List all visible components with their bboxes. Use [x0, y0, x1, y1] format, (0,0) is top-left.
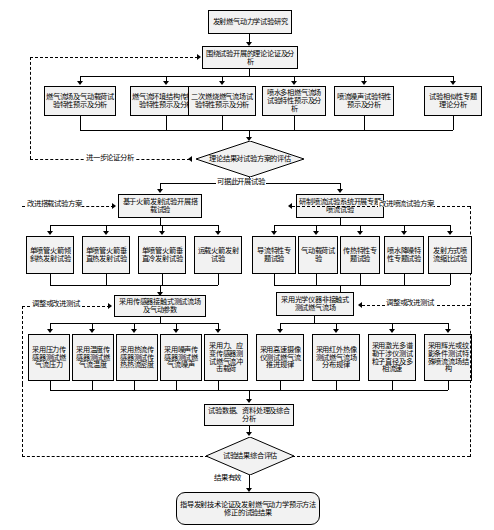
arrow-cm-4 [173, 329, 179, 333]
dash-feedback-left-up [22, 384, 23, 457]
edge-theory-bus [249, 69, 250, 76]
arrow-theory-3 [219, 81, 225, 85]
node-contact-measure-4: 采用噪声传感器测试燃气流噪声 [160, 334, 202, 381]
up-om-3 [392, 381, 393, 390]
up-theory-2 [166, 116, 167, 130]
bus-jet [274, 225, 450, 226]
up-cm-4 [176, 381, 177, 390]
arrow-cm-2 [89, 329, 95, 333]
up-om-2 [336, 381, 337, 390]
node-contact-measure-1: 采用压力传感器测试燃气流压力 [28, 334, 70, 381]
node-left-test-1: 单喷管火箭倾斜热发射试验 [26, 236, 74, 274]
up-om-4 [448, 381, 449, 390]
arrow-analysis-decision2 [246, 432, 252, 436]
up-ltest-1 [50, 274, 51, 285]
arrow-proceed-left [157, 189, 163, 193]
label-can-proceed: 可据此开展试验 [216, 178, 266, 185]
node-optical-measure-3: 采用激光多谱勒干涉仪测试粒子直径及多相流速 [368, 334, 416, 381]
edge-carrier-bus [160, 218, 161, 225]
arrow-measures-to-analysis [246, 399, 252, 403]
up-rtest-5 [450, 274, 451, 285]
node-root: 发射燃气动力学试验研究 [208, 10, 292, 34]
up-cm-2 [92, 381, 93, 390]
arrow-ltest-2 [103, 231, 109, 235]
node-final-outcome: 指导发射技术论证及发射燃气动力学预示方法修正的试验结果 [176, 492, 320, 525]
up-theory-6 [453, 116, 454, 130]
edge-jet-bus [340, 218, 341, 225]
up-ltest-2 [106, 274, 107, 285]
up-cm-1 [50, 381, 51, 390]
arrow-rtest-5 [447, 231, 453, 235]
label-adjust-test-left: 调整或改进测试 [31, 300, 81, 307]
node-theory-child-4: 喷水多相燃气流场试验特性预示及分析 [262, 86, 326, 116]
arrow-rtest-2 [313, 231, 319, 235]
arrow-om-2 [333, 329, 339, 333]
node-branch-carrier-test: 基于火箭发射试验开展搭载试验 [118, 194, 202, 218]
up-rtest-3 [360, 274, 361, 285]
label-further-analysis: 进一步论证分析 [85, 154, 135, 161]
arrow-om-4 [445, 329, 451, 333]
bus-carrier [50, 225, 218, 226]
arrow-theory-6 [450, 81, 456, 85]
node-right-test-3: 传热特性专题试验 [340, 236, 380, 274]
arrow-rtest-1 [271, 231, 277, 235]
decision-theory-eval-label: 理论结果对试验方案的评估 [196, 141, 304, 177]
node-data-analysis: 试验数据、资料处理及综合分析 [204, 404, 294, 426]
up-rtest-1 [274, 274, 275, 285]
edge-optical-bus [314, 316, 315, 323]
arrow-ltest-4 [215, 231, 221, 235]
up-theory-4 [294, 116, 295, 130]
label-improve-jet: 改进喷流试验方案 [378, 200, 434, 207]
node-left-test-4: 运载火箭发射试验 [194, 236, 242, 274]
node-theory: 围绕试验开展的理论论证及分析 [202, 46, 298, 69]
bus-optical [280, 323, 448, 324]
node-contact-measure-3: 采用热流传感器测试传热热流密度 [116, 334, 158, 381]
bus-rtest-collect [274, 285, 450, 286]
node-theory-child-6: 试验相似性专题理论分析 [424, 86, 482, 116]
node-theory-child-3: 二次燃烧燃气流场试验特性预示及分析 [188, 86, 256, 116]
label-result-valid: 结果有效 [213, 474, 242, 481]
up-ltest-4 [218, 274, 219, 285]
node-theory-child-1: 燃气流场及气动载荷试验特性预示及分析 [44, 86, 116, 116]
up-rtest-2 [316, 274, 317, 285]
arrow-theory-1 [77, 81, 83, 85]
up-ltest-3 [162, 274, 163, 285]
bus-theory-row [80, 76, 453, 77]
dash-feedback-left [22, 456, 208, 457]
node-method-optical: 采用光学仪器非接触式测试燃气流场 [276, 292, 354, 316]
node-contact-measure-5: 采用力、应变传感器测试燃气流冲击载荷 [204, 334, 248, 381]
node-right-test-1: 导流特性专题试验 [252, 236, 296, 274]
arrow-cm-5 [215, 329, 221, 333]
node-method-contact: 采用传感器接触式测试流场及气动参数 [114, 295, 206, 317]
node-optical-measure-4: 采用辉光或纹影条件测试特殊喷流流场结构 [424, 334, 472, 381]
arrow-om-1 [277, 329, 283, 333]
up-cm-5 [218, 381, 219, 390]
arrow-om-3 [389, 329, 395, 333]
arrow-cm-1 [47, 329, 53, 333]
node-right-test-5: 发射方式喷流缩比试验 [428, 236, 472, 274]
arrow-cm-3 [131, 329, 137, 333]
up-om-1 [280, 381, 281, 390]
node-right-test-4: 喷水降噪特性专题试验 [384, 236, 424, 274]
dash-feedback-right-up [470, 311, 471, 457]
arrow-proceed-right [337, 189, 343, 193]
dash-feedback-right [292, 456, 470, 457]
edge-decision2-final [249, 475, 250, 489]
bus-theory-collect [80, 130, 453, 131]
arrow-rtest-3 [357, 231, 363, 235]
flowchart-canvas: 发射燃气动力学试验研究 围绕试验开展的理论论证及分析 燃气流场及气动载荷试验特性… [0, 0, 494, 530]
dash-further-analysis-top [30, 57, 198, 58]
up-theory-5 [364, 116, 365, 130]
up-theory-1 [80, 116, 81, 130]
label-adjust-test-right: 调整或改进测试 [385, 299, 435, 306]
node-right-test-2: 气动载荷试验 [298, 236, 338, 274]
arrow-rtest-4 [401, 231, 407, 235]
arrow-theory-2 [163, 81, 169, 85]
arrow-further-analysis-into-theory [197, 54, 201, 60]
up-cm-3 [134, 381, 135, 390]
arrow-ltest-1 [47, 231, 53, 235]
arrow-ltest-3 [159, 231, 165, 235]
node-optical-measure-1: 采用高速摄像仪测试燃气流推进规律 [256, 334, 304, 381]
up-rtest-4 [404, 274, 405, 285]
node-decision-theory-eval: 理论结果对试验方案的评估 [196, 141, 304, 177]
